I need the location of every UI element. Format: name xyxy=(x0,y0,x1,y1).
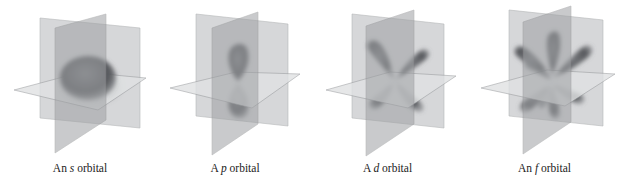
caption-s-orbital: An s orbital xyxy=(0,162,160,174)
front-plane xyxy=(523,6,571,154)
caption-p-orbital: A p orbital xyxy=(160,162,310,174)
panel-d-orbital: A d orbital xyxy=(310,0,465,185)
p-orbital-illustration xyxy=(160,0,310,160)
f-orbital-illustration xyxy=(465,0,624,160)
d-orbital-illustration xyxy=(310,0,465,160)
front-plane xyxy=(212,12,258,155)
panel-s-orbital: An s orbital xyxy=(0,0,160,185)
front-plane xyxy=(366,10,414,156)
s-orbital-illustration xyxy=(0,0,160,160)
caption-f-orbital: An f orbital xyxy=(465,162,624,174)
front-plane xyxy=(55,14,106,153)
panel-p-orbital: A p orbital xyxy=(160,0,310,185)
panel-f-orbital: An f orbital xyxy=(465,0,624,185)
orbital-figure: An s orbital A p orbital xyxy=(0,0,624,185)
caption-d-orbital: A d orbital xyxy=(310,162,465,174)
